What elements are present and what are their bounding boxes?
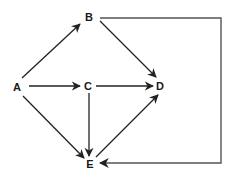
node-b: B <box>85 11 93 23</box>
node-c: C <box>84 80 92 92</box>
edge-a-to-e <box>23 96 84 158</box>
edge-e-to-d <box>96 95 158 157</box>
edge-a-to-b <box>22 24 80 78</box>
directed-graph-diagram: A B C D E <box>0 0 234 177</box>
node-e: E <box>86 158 93 170</box>
edge-b-to-d <box>100 21 156 77</box>
node-d: D <box>156 80 164 92</box>
node-a: A <box>13 81 21 93</box>
